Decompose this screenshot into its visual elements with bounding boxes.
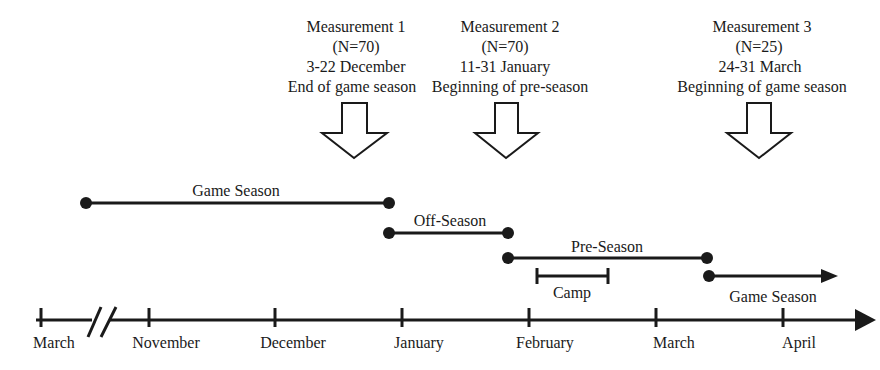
measurement-1-title: Measurement 1 [306, 18, 405, 35]
period-start-dot [502, 252, 514, 264]
period-pre-season: Pre-Season [502, 238, 713, 264]
down-arrow-icon [475, 103, 538, 158]
axis-break-mark [88, 307, 101, 337]
tick-label-december: December [260, 334, 326, 351]
period-label: Pre-Season [571, 238, 643, 255]
arrow-right-icon [821, 269, 838, 283]
measurement-1-n: (N=70) [332, 38, 379, 56]
period-end-dot [383, 197, 395, 209]
measurement-2: Measurement 2 (N=70) 11-31 January Begin… [432, 18, 588, 158]
period-off-season: Off-Season [383, 212, 514, 239]
tick-label-january: January [394, 334, 444, 352]
tick-label-march: March [33, 334, 75, 351]
axis-arrow-icon [855, 309, 876, 331]
measurement-2-title: Measurement 2 [460, 18, 559, 35]
tick-label-april: April [782, 334, 816, 352]
period-start-dot [703, 270, 715, 282]
period-label: Game Season [729, 288, 817, 305]
measurement-2-n: (N=70) [481, 38, 528, 56]
measurement-3-dates: 24-31 March [718, 58, 801, 75]
measurement-3-phase: Beginning of game season [677, 78, 846, 96]
down-arrow-icon [322, 103, 387, 158]
measurement-1-dates: 3-22 December [306, 58, 406, 75]
period-camp: Camp [537, 268, 608, 302]
tick-label-november: November [132, 334, 200, 351]
measurement-3-n: (N=25) [735, 38, 782, 56]
measurement-2-dates: 11-31 January [460, 58, 551, 76]
period-game-season-1: Game Season [80, 182, 395, 209]
down-arrow-icon [727, 103, 791, 158]
period-end-dot [502, 227, 514, 239]
measurement-1: Measurement 1 (N=70) 3-22 December End o… [288, 18, 416, 158]
period-start-dot [80, 197, 92, 209]
time-axis: March November December January February… [33, 307, 876, 352]
tick-label-february: February [516, 334, 574, 352]
axis-break-mark [101, 307, 116, 337]
season-timeline-diagram: Measurement 1 (N=70) 3-22 December End o… [0, 0, 880, 370]
tick-label-march-2: March [653, 334, 695, 351]
measurement-3: Measurement 3 (N=25) 24-31 March Beginni… [677, 18, 846, 158]
measurement-2-phase: Beginning of pre-season [432, 78, 588, 96]
measurement-3-title: Measurement 3 [712, 18, 811, 35]
period-label: Camp [553, 284, 591, 302]
measurement-1-phase: End of game season [288, 78, 416, 96]
period-end-dot [701, 252, 713, 264]
period-start-dot [383, 227, 395, 239]
period-game-season-2: Game Season [703, 269, 838, 305]
period-label: Off-Season [414, 212, 487, 229]
period-label: Game Season [192, 182, 280, 199]
